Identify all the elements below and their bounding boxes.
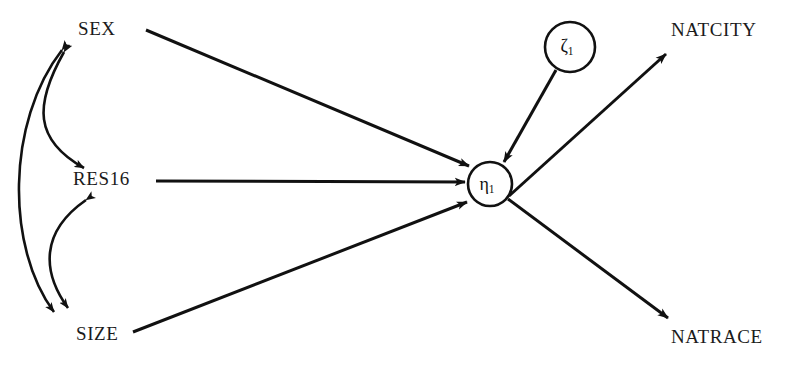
observed-label-natrace: NATRACE	[671, 326, 763, 347]
covariance-arc-res16-size	[50, 200, 86, 308]
diagram-canvas: η1 ζ1 SEX RES16 SIZE NATCITY NATRACE	[0, 0, 790, 369]
path-zeta1-to-eta1	[504, 70, 556, 162]
path-eta1-to-natrace	[508, 199, 668, 318]
latent-node-eta1: η1	[468, 162, 512, 206]
path-res16-to-eta1	[156, 181, 465, 182]
eta1-symbol: η	[479, 174, 488, 194]
eta1-subscript: 1	[489, 183, 495, 195]
observed-label-natcity: NATCITY	[671, 19, 756, 40]
path-sex-to-eta1	[146, 30, 469, 166]
path-eta1-to-natcity	[509, 54, 666, 196]
observed-label-size: SIZE	[76, 323, 119, 344]
directed-path-group	[133, 30, 668, 332]
latent-node-zeta1: ζ1	[545, 22, 595, 72]
zeta1-subscript: 1	[568, 45, 574, 57]
path-size-to-eta1	[133, 202, 467, 332]
path-diagram: η1 ζ1 SEX RES16 SIZE NATCITY NATRACE	[0, 0, 790, 369]
observed-label-res16: RES16	[73, 168, 130, 189]
covariance-arc-sex-size	[19, 50, 62, 312]
observed-label-sex: SEX	[78, 18, 116, 39]
